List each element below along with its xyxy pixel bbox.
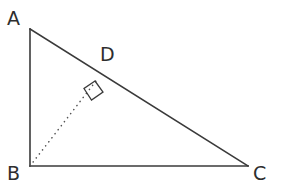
segment-ac-hypotenuse (30, 29, 248, 166)
vertex-label-b: B (7, 164, 20, 183)
triangle-diagram-canvas (0, 0, 284, 186)
vertex-label-d: D (100, 45, 115, 64)
vertex-label-c: C (253, 164, 266, 183)
geometry-figure: A B C D (0, 0, 284, 186)
right-angle-marker-icon (84, 81, 103, 100)
segment-bd-altitude (30, 81, 96, 166)
vertex-label-a: A (7, 9, 20, 28)
